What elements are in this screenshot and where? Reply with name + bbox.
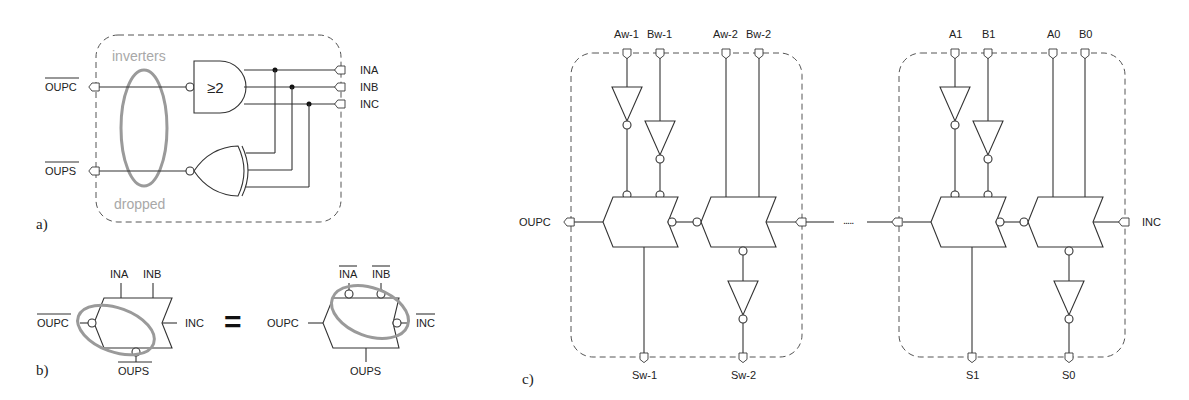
svg-text:INA: INA <box>339 268 358 280</box>
ellipsis: ..... <box>843 214 854 226</box>
panel-a-label: a) <box>36 216 48 233</box>
svg-text:OUPC: OUPC <box>37 317 69 329</box>
xnor-gate <box>194 146 244 196</box>
adder-block-0: A1 B1 A0 B0 INC S1 S0 <box>892 28 1161 381</box>
oupc-port <box>89 83 99 91</box>
svg-text:A1: A1 <box>949 28 962 40</box>
svg-text:OUPS: OUPS <box>350 365 381 377</box>
svg-text:INC: INC <box>416 317 435 329</box>
inb-label: INB <box>360 81 378 93</box>
svg-text:INB: INB <box>143 268 161 280</box>
panel-c: c) Aw-1 Bw-1 Aw-2 Bw-2 OUPC <box>519 28 1161 388</box>
full-adder-4 <box>1028 197 1103 247</box>
full-adder-3 <box>931 197 1006 247</box>
oups-label: OUPS <box>45 165 76 177</box>
oupc-label: OUPC <box>45 81 77 93</box>
svg-text:S0: S0 <box>1062 369 1075 381</box>
inverters-annotation: inverters <box>112 48 166 64</box>
svg-text:B1: B1 <box>982 28 995 40</box>
svg-text:S1: S1 <box>966 369 979 381</box>
svg-text:INA: INA <box>110 268 129 280</box>
svg-text:Aw-1: Aw-1 <box>614 28 639 40</box>
svg-text:Bw-1: Bw-1 <box>647 28 672 40</box>
circuit-diagram: inverters dropped OUPC ≥2 INA INB INC OU… <box>0 0 1189 400</box>
panel-c-label: c) <box>522 371 534 388</box>
svg-text:Sw-2: Sw-2 <box>731 369 756 381</box>
svg-text:OUPC: OUPC <box>267 317 299 329</box>
dropped-annotation: dropped <box>114 196 165 212</box>
oupc-label-c: OUPC <box>519 216 551 228</box>
svg-text:Aw-2: Aw-2 <box>713 28 738 40</box>
svg-text:INB: INB <box>372 268 390 280</box>
svg-text:Bw-2: Bw-2 <box>746 28 771 40</box>
panel-b: INA INB OUPC INC OUPS = INA INB OUPC INC… <box>36 266 435 379</box>
equals-sign: = <box>224 305 242 338</box>
full-adder-2 <box>701 197 776 247</box>
inc-label-c: INC <box>1142 216 1161 228</box>
ina-label: INA <box>360 64 379 76</box>
svg-text:OUPS: OUPS <box>118 365 149 377</box>
svg-text:INC: INC <box>185 317 204 329</box>
panel-b-label: b) <box>36 362 49 379</box>
adder-symbol-right <box>323 298 399 348</box>
panel-a: inverters dropped OUPC ≥2 INA INB INC OU… <box>36 35 379 233</box>
svg-text:A0: A0 <box>1047 28 1060 40</box>
svg-text:Sw-1: Sw-1 <box>632 369 657 381</box>
svg-text:B0: B0 <box>1079 28 1092 40</box>
full-adder-1 <box>603 197 678 247</box>
oups-port <box>89 167 99 175</box>
adder-block-w: Aw-1 Bw-1 Aw-2 Bw-2 OUPC Sw-1 Sw-2 <box>519 28 834 381</box>
svg-text:≥2: ≥2 <box>207 79 224 96</box>
inc-label: INC <box>360 98 379 110</box>
